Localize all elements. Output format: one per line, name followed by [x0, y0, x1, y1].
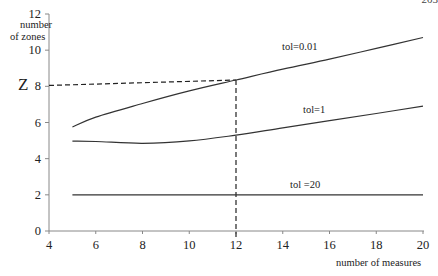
x-tick-label: 8 — [139, 238, 145, 252]
series-label-tol-20: tol =20 — [290, 179, 320, 190]
y-tick-label: 6 — [35, 116, 41, 130]
series-label-tol-0-01: tol=0.01 — [282, 41, 317, 52]
x-tick-label: 12 — [230, 238, 243, 252]
x-ticks: 468101214161820 — [46, 231, 429, 252]
series-lines — [72, 38, 423, 195]
x-tick-label: 14 — [277, 238, 290, 252]
y-tick-label: 0 — [35, 224, 41, 238]
x-tick-label: 10 — [183, 238, 196, 252]
z-marker-label: Z — [18, 75, 28, 94]
line-chart: 024681012 468101214161820 number of zone… — [0, 0, 438, 276]
series-tol-1 — [72, 106, 423, 143]
x-tick-label: 6 — [93, 238, 99, 252]
x-tick-label: 18 — [370, 238, 383, 252]
y-tick-label: 8 — [35, 79, 41, 93]
series-label-tol-1: tol=1 — [303, 104, 325, 115]
x-axis-label: number of measures — [336, 257, 421, 268]
x-tick-label: 4 — [46, 238, 53, 252]
z-dashed-guide — [49, 80, 236, 85]
x-tick-label: 20 — [417, 238, 430, 252]
y-tick-label: 4 — [35, 152, 42, 166]
y-tick-label: 10 — [29, 43, 42, 57]
y-axis-label-line2: of zones — [10, 31, 45, 42]
y-axis-label-line1: number — [20, 19, 53, 30]
y-tick-label: 2 — [35, 188, 41, 202]
x-tick-label: 16 — [323, 238, 336, 252]
series-tol-0-01 — [72, 38, 423, 128]
